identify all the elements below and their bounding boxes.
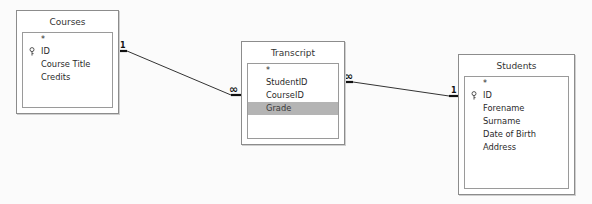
field-row[interactable]: Date of Birth — [465, 128, 568, 141]
field-row[interactable]: ID — [465, 89, 568, 102]
table-title[interactable]: Transcript — [242, 47, 344, 59]
field-all[interactable]: * — [465, 77, 568, 89]
field-all[interactable]: * — [23, 33, 112, 45]
field-name: ID — [483, 90, 492, 100]
field-row-selected[interactable]: Grade — [248, 102, 338, 115]
field-name: Surname — [483, 116, 520, 126]
field-row[interactable]: Credits — [23, 71, 112, 84]
table-courses[interactable]: Courses * ID Course Title Credits — [16, 10, 119, 114]
field-row[interactable]: Forename — [465, 102, 568, 115]
table-students[interactable]: Students * ID Forename Surname Date of B… — [458, 54, 575, 195]
field-row[interactable]: Surname — [465, 115, 568, 128]
field-list[interactable]: * StudentID CourseID Grade — [247, 63, 339, 139]
cardinality-one-students: 1 — [451, 87, 457, 95]
relationship-courses-transcript-line[interactable] — [127, 51, 231, 95]
table-transcript[interactable]: Transcript * StudentID CourseID Grade — [241, 41, 345, 145]
field-row[interactable]: ID — [23, 45, 112, 58]
cardinality-many-transcript-right: ∞ — [344, 72, 353, 81]
field-list[interactable]: * ID Course Title Credits — [22, 32, 113, 108]
field-name: Course Title — [41, 59, 90, 69]
relationship-transcript-students-line[interactable] — [353, 82, 449, 96]
field-row[interactable]: CourseID — [248, 89, 338, 102]
table-title[interactable]: Students — [459, 60, 574, 72]
field-name: Address — [483, 142, 516, 152]
field-row[interactable]: Address — [465, 141, 568, 154]
field-all[interactable]: * — [248, 64, 338, 76]
field-row[interactable]: Course Title — [23, 58, 112, 71]
field-name: Credits — [41, 72, 70, 82]
field-name: StudentID — [266, 77, 308, 87]
cardinality-one-courses: 1 — [120, 42, 126, 50]
field-name: ID — [41, 46, 50, 56]
key-icon — [470, 91, 478, 100]
field-name: CourseID — [266, 90, 304, 100]
field-name: Forename — [483, 103, 524, 113]
field-name: Date of Birth — [483, 129, 536, 139]
cardinality-many-transcript-left: ∞ — [229, 85, 238, 94]
key-icon — [28, 47, 36, 56]
table-title[interactable]: Courses — [17, 16, 118, 28]
field-list[interactable]: * ID Forename Surname Date of Birth Addr… — [464, 76, 569, 189]
field-name: Grade — [266, 103, 291, 113]
field-row[interactable]: StudentID — [248, 76, 338, 89]
